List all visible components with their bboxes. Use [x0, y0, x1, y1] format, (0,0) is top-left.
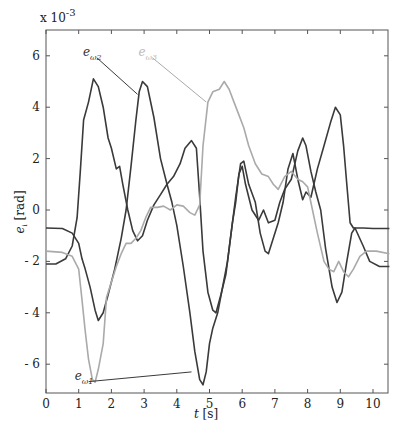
x-tick-label: 9	[336, 397, 344, 411]
x-tick-label: 2	[108, 397, 116, 411]
x-tick-label: 3	[140, 397, 148, 411]
y-tick-label: 6	[32, 49, 40, 63]
series-label-e_ω3: eω3	[138, 45, 157, 62]
x-axis-label: t [s]	[194, 407, 218, 421]
y-exponent: -3	[66, 7, 76, 18]
x-tick-label: 8	[304, 397, 312, 411]
y-axis-ticks: - 6- 4- 20246	[24, 49, 388, 371]
y-multiplier: x 10-3	[40, 7, 76, 25]
series-line-e_ω3	[46, 82, 389, 383]
x-axis-ticks: 012345678910	[42, 30, 380, 411]
x-tick-label: 7	[271, 397, 279, 411]
x-tick-label: 0	[42, 397, 50, 411]
y-tick-label: - 2	[24, 254, 40, 268]
series-line-e_ω2	[46, 79, 389, 313]
series-layer	[46, 79, 389, 385]
series-label-leader	[152, 58, 206, 102]
x-tick-label: 1	[75, 397, 83, 411]
y-tick-label: 4	[32, 100, 40, 114]
line-chart: 012345678910 - 6- 4- 20246 eω1eω2eω3 x 1…	[0, 0, 403, 432]
series-label-leader	[97, 58, 138, 95]
x-tick-label: 6	[238, 397, 246, 411]
series-label-e_ω2: eω2	[83, 45, 102, 62]
series-line-e_ω1	[46, 82, 389, 385]
y-tick-label: - 4	[24, 306, 40, 320]
y-axis-label: ei [rad]	[13, 190, 29, 233]
series-label-leader	[89, 372, 192, 382]
y-tick-label: 2	[32, 152, 40, 166]
x-tick-label: 4	[173, 397, 181, 411]
x-tick-label: 10	[365, 397, 380, 411]
series-labels: eω1eω2eω3	[75, 45, 207, 386]
y-tick-label: - 6	[24, 357, 40, 371]
y-tick-label: 0	[32, 203, 40, 217]
